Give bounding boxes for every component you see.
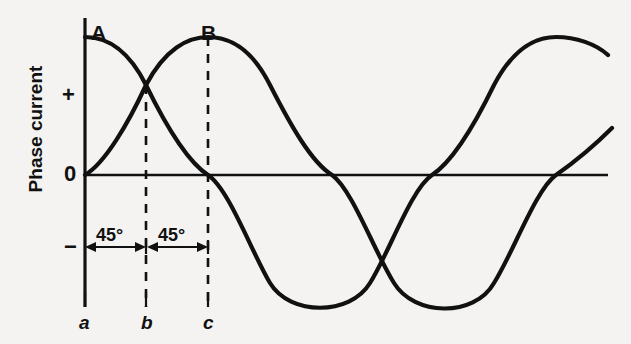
curve-label-a: A xyxy=(91,22,106,43)
angle-label-a-b: 45° xyxy=(96,226,123,244)
point-label-a: a xyxy=(79,313,90,332)
waveform-plot xyxy=(0,0,631,344)
curve-label-b: B xyxy=(201,22,216,43)
point-label-c: c xyxy=(203,313,214,332)
phase-current-figure: Phase current + 0 − A B 45° 45° a b c xyxy=(0,0,631,344)
curve-b-path xyxy=(85,37,612,309)
y-axis-title: Phase current xyxy=(25,49,47,209)
curve-a-path xyxy=(85,37,608,308)
point-label-b: b xyxy=(141,313,153,332)
angle-label-b-c: 45° xyxy=(158,226,185,244)
y-tick-label-zero: 0 xyxy=(64,163,76,185)
y-tick-label-minus: − xyxy=(64,236,77,258)
y-tick-label-plus: + xyxy=(62,84,75,106)
